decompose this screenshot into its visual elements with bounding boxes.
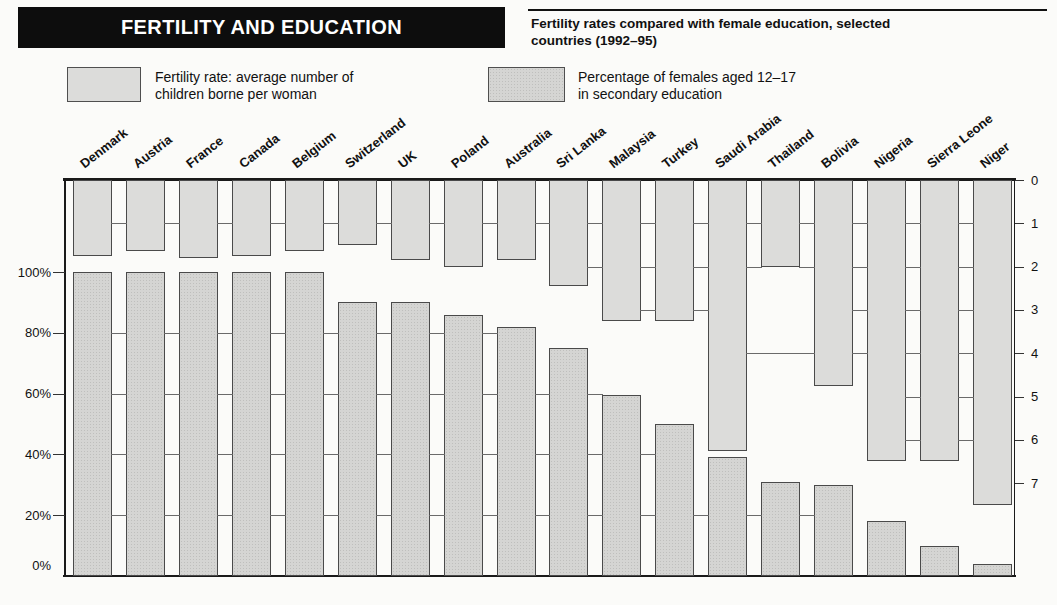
gridline-fertility-4-gap-15: [905, 353, 921, 354]
gridline-education-20-gap-11: [693, 515, 709, 516]
right-axis-label-3: 3: [1031, 303, 1051, 316]
fertility-bar-thailand: [761, 180, 800, 267]
left-axis-tick-40: [53, 454, 65, 455]
fertility-bar-canada: [232, 180, 271, 256]
education-bar-belgium: [285, 272, 324, 576]
gridline-education-40-gap-0: [111, 454, 127, 455]
gridline-education-80-gap-6: [429, 333, 445, 334]
gridline-fertility-5-gap-15: [905, 397, 921, 398]
gridline-fertility-3-gap-15: [905, 310, 921, 311]
gridline-education-40-gap-10: [640, 454, 656, 455]
education-bar-canada: [232, 272, 271, 576]
gridline-education-80-gap-1: [164, 333, 180, 334]
gridline-fertility-1-gap-16: [958, 223, 974, 224]
fertility-bar-uk: [391, 180, 430, 260]
gridline-fertility-1-gap-10: [640, 223, 656, 224]
education-bar-niger: [973, 564, 1012, 576]
left-axis-label-0: 0%: [8, 559, 51, 572]
left-axis-label-60: 60%: [8, 387, 51, 400]
gridline-education-80-gap-2: [217, 333, 233, 334]
fertility-bar-malaysia: [602, 180, 641, 321]
gridline-education-80-gap-5: [376, 333, 392, 334]
gridline-education-80-gap-0: [111, 333, 127, 334]
gridline-fertility-6-gap-15: [905, 440, 921, 441]
country-label-poland: Poland: [448, 133, 492, 172]
fertility-bar-australia: [497, 180, 536, 260]
left-axis-label-80: 80%: [8, 326, 51, 339]
gridline-fertility-4-gap-14: [852, 353, 868, 354]
country-label-turkey: Turkey: [659, 134, 702, 172]
country-label-canada: Canada: [236, 130, 283, 172]
gridline-fertility-2-gap-12: [746, 267, 762, 268]
country-label-bolivia: Bolivia: [818, 133, 861, 172]
gridline-education-20-gap-1: [164, 515, 180, 516]
fertility-bar-austria: [126, 180, 165, 251]
gridline-education-40-gap-1: [164, 454, 180, 455]
page: FERTILITY AND EDUCATION Fertility rates …: [0, 0, 1057, 605]
left-axis-tick-80: [53, 333, 65, 334]
gridline-education-60-gap-0: [111, 394, 127, 395]
country-label-uk: UK: [395, 148, 420, 172]
gridline-education-20-gap-13: [799, 515, 815, 516]
fertility-bar-france: [179, 180, 218, 258]
gridline-fertility-1-gap-1: [164, 223, 180, 224]
gridline-fertility-1-gap-14: [852, 223, 868, 224]
gridline-education-60-gap-3: [270, 394, 286, 395]
gridline-education-80-gap-4: [323, 333, 339, 334]
gridline-education-40-gap-8: [535, 454, 551, 455]
gridline-education-20-gap-12: [746, 515, 762, 516]
country-label-denmark: Denmark: [77, 125, 131, 172]
education-bar-australia: [497, 327, 536, 576]
left-axis-tick-100: [53, 272, 65, 273]
right-axis-label-7: 7: [1031, 477, 1051, 490]
gridline-fertility-1-gap-3: [270, 223, 286, 224]
right-axis-tick-6: [1015, 440, 1024, 441]
gridline-fertility-4-gap-16: [958, 353, 974, 354]
country-label-france: France: [183, 133, 226, 172]
education-bar-austria: [126, 272, 165, 576]
left-axis-label-100: 100%: [8, 266, 51, 279]
education-bar-uk: [391, 302, 430, 576]
gridline-fertility-1-gap-9: [587, 223, 603, 224]
gridline-education-20-gap-3: [270, 515, 286, 516]
gridline-education-20-gap-9: [587, 515, 603, 516]
y-axis-right-line: [1014, 180, 1015, 576]
education-bar-turkey: [655, 424, 694, 576]
gridline-fertility-3-gap-11: [693, 310, 709, 311]
right-axis-label-5: 5: [1031, 390, 1051, 403]
gridline-fertility-3-gap-10: [640, 310, 656, 311]
gridline-education-40-gap-3: [270, 454, 286, 455]
gridline-fertility-1-gap-2: [217, 223, 233, 224]
gridline-fertility-2-gap-16: [958, 267, 974, 268]
fertility-bar-switzerland: [338, 180, 377, 245]
education-bar-sri-lanka: [549, 348, 588, 576]
gridline-fertility-1-gap-11: [693, 223, 709, 224]
gridline-education-60-gap-9: [587, 394, 603, 395]
right-axis-tick-1: [1015, 223, 1024, 224]
gridline-education-60-gap-6: [429, 394, 445, 395]
y-axis-left-line: [64, 178, 66, 576]
fertility-bar-nigeria: [867, 180, 906, 461]
gridline-education-60-gap-2: [217, 394, 233, 395]
country-label-niger: Niger: [977, 139, 1013, 172]
country-label-thailand: Thailand: [765, 126, 817, 172]
gridline-fertility-1-gap-5: [376, 223, 392, 224]
gridline-fertility-1-gap-8: [535, 223, 551, 224]
gridline-fertility-1-gap-13: [799, 223, 815, 224]
right-axis-label-0: 0: [1031, 174, 1051, 187]
fertility-bar-sierra-leone: [920, 180, 959, 461]
fertility-bar-turkey: [655, 180, 694, 321]
gridline-fertility-5-gap-16: [958, 397, 974, 398]
gridline-fertility-1-gap-0: [111, 223, 127, 224]
gridline-education-60-gap-8: [535, 394, 551, 395]
education-bar-saudi-arabia: [708, 457, 747, 576]
country-label-austria: Austria: [130, 132, 175, 172]
gridline-education-40-gap-9: [587, 454, 603, 455]
left-axis-label-40: 40%: [8, 448, 51, 461]
education-bar-bolivia: [814, 485, 853, 576]
left-axis-tick-60: [53, 394, 65, 395]
country-label-australia: Australia: [501, 125, 555, 172]
country-label-belgium: Belgium: [289, 128, 339, 172]
gridline-education-40-gap-6: [429, 454, 445, 455]
education-bar-malaysia: [602, 395, 641, 576]
